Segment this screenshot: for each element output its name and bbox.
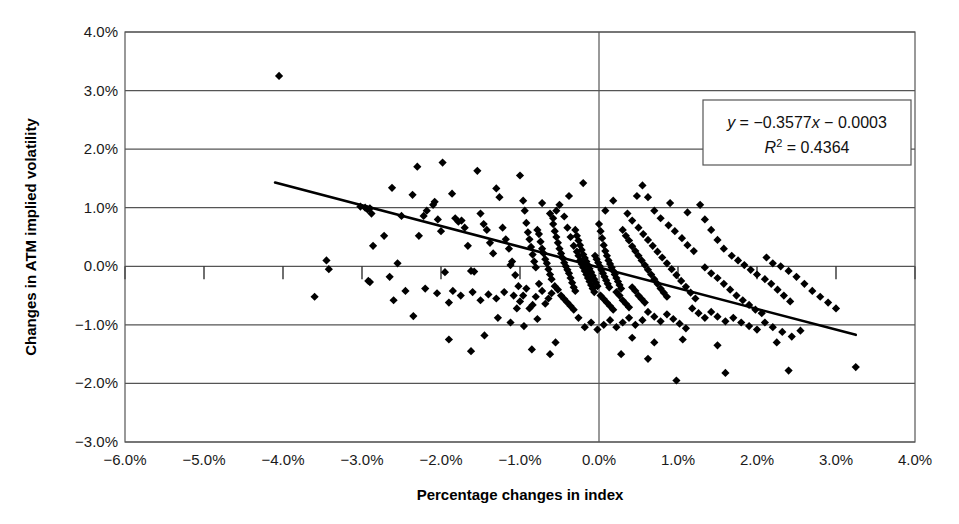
scatter-point bbox=[633, 192, 641, 200]
y-tick-label: 2.0% bbox=[84, 140, 118, 157]
scatter-point bbox=[464, 242, 472, 250]
scatter-point bbox=[535, 280, 543, 288]
scatter-point bbox=[513, 304, 521, 312]
scatter-point bbox=[408, 191, 416, 199]
scatter-point bbox=[688, 304, 696, 312]
scatter-point bbox=[511, 271, 519, 279]
scatter-point bbox=[579, 179, 587, 187]
scatter-point bbox=[728, 252, 736, 260]
regression-annotation-box: y = −0.3577x − 0.0003 R2 = 0.4364 bbox=[703, 100, 911, 165]
scatter-point bbox=[778, 328, 786, 336]
scatter-point bbox=[484, 290, 492, 298]
scatter-point bbox=[634, 224, 642, 232]
scatter-point bbox=[644, 355, 652, 363]
scatter-point bbox=[669, 315, 677, 323]
scatter-point bbox=[520, 322, 528, 330]
scatter-point bbox=[489, 249, 497, 257]
scatter-point bbox=[560, 212, 568, 220]
scatter-point bbox=[524, 228, 532, 236]
scatter-point bbox=[682, 324, 690, 332]
y-tick-label: 3.0% bbox=[84, 82, 118, 99]
x-tick-label: −3.0% bbox=[341, 451, 384, 468]
scatter-point bbox=[445, 335, 453, 343]
x-tick-label: 3.0% bbox=[819, 451, 853, 468]
scatter-point bbox=[600, 241, 608, 249]
scatter-point bbox=[449, 287, 457, 295]
scatter-point bbox=[566, 233, 574, 241]
x-tick-label: −5.0% bbox=[183, 451, 226, 468]
scatter-point bbox=[421, 284, 429, 292]
scatter-point bbox=[729, 314, 737, 322]
scatter-point bbox=[649, 242, 657, 250]
scatter-point bbox=[476, 296, 484, 304]
scatter-point bbox=[663, 310, 671, 318]
regression-equation-text: y = −0.3577x − 0.0003 bbox=[726, 114, 887, 131]
scatter-point bbox=[628, 217, 636, 225]
scatter-point bbox=[571, 226, 579, 234]
scatter-point bbox=[650, 313, 658, 321]
scatter-point bbox=[322, 256, 330, 264]
y-tick-label: −1.0% bbox=[75, 316, 118, 333]
scatter-point bbox=[664, 221, 672, 229]
scatter-point bbox=[525, 235, 533, 243]
scatter-point bbox=[530, 258, 538, 266]
x-tick-label: 0.0% bbox=[582, 451, 616, 468]
scatter-point bbox=[514, 282, 522, 290]
scatter-point bbox=[565, 192, 573, 200]
scatter-point bbox=[433, 289, 441, 297]
scatter-point bbox=[600, 321, 608, 329]
scatter-point bbox=[628, 334, 636, 342]
scatter-point bbox=[532, 263, 540, 271]
scatter-point bbox=[536, 238, 544, 246]
scatter-point bbox=[473, 167, 481, 175]
y-tick-label: −2.0% bbox=[75, 374, 118, 391]
x-axis-title: Percentage changes in index bbox=[417, 486, 624, 503]
scatter-point bbox=[785, 267, 793, 275]
scatter-point bbox=[495, 193, 503, 201]
scatter-point bbox=[639, 230, 647, 238]
scatter-point bbox=[657, 317, 665, 325]
scatter-point bbox=[533, 315, 541, 323]
scatter-point bbox=[538, 199, 546, 207]
scatter-point bbox=[631, 321, 639, 329]
y-tick-label: 4.0% bbox=[84, 23, 118, 40]
scatter-point bbox=[388, 184, 396, 192]
scatter-point bbox=[532, 293, 540, 301]
x-tick-label: −6.0% bbox=[104, 451, 147, 468]
scatter-point bbox=[788, 332, 796, 340]
scatter-point bbox=[593, 325, 601, 333]
scatter-point bbox=[650, 338, 658, 346]
scatter-point bbox=[500, 288, 508, 296]
scatter-point bbox=[701, 314, 709, 322]
scatter-point bbox=[721, 317, 729, 325]
scatter-point bbox=[401, 287, 409, 295]
scatter-point bbox=[390, 296, 398, 304]
scatter-point bbox=[457, 291, 465, 299]
scatter-point bbox=[707, 269, 715, 277]
scatter-point bbox=[767, 280, 775, 288]
scatter-point bbox=[492, 294, 500, 302]
scatter-point bbox=[740, 261, 748, 269]
scatter-point bbox=[546, 350, 554, 358]
scatter-point bbox=[644, 236, 652, 244]
scatter-point bbox=[816, 293, 824, 301]
x-tick-label: −2.0% bbox=[420, 451, 463, 468]
scatter-point bbox=[644, 193, 652, 201]
scatter-point bbox=[563, 224, 571, 232]
gridlines bbox=[125, 32, 915, 442]
scatter-point bbox=[761, 275, 769, 283]
scatter-point bbox=[554, 239, 562, 247]
scatter-point bbox=[437, 227, 445, 235]
scatter-point bbox=[574, 314, 582, 322]
x-tick-label: 1.0% bbox=[661, 451, 695, 468]
y-axis-title: Changes in ATM implied volatility bbox=[22, 118, 39, 356]
scatter-point bbox=[721, 369, 729, 377]
scatter-point bbox=[409, 312, 417, 320]
scatter-point bbox=[726, 286, 734, 294]
scatter-point bbox=[690, 247, 698, 255]
scatter-point bbox=[753, 325, 761, 333]
scatter-point bbox=[675, 320, 683, 328]
scatter-point bbox=[653, 248, 661, 256]
scatter-point bbox=[644, 308, 652, 316]
scatter-point bbox=[434, 215, 442, 223]
